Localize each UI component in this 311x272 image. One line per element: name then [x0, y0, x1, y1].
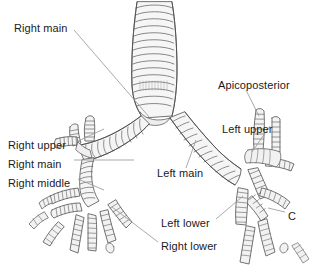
bronchial-tree-figure: Right main Apicoposterior Right upper Le… [0, 0, 311, 272]
label-right-middle: Right middle [8, 177, 70, 189]
label-left-lower: Left lower [161, 217, 210, 229]
accessory-bronchiole-buds-left [105, 242, 116, 254]
leader-marker-c [268, 208, 285, 212]
trachea [132, 2, 177, 118]
leader-right-lower [112, 207, 158, 242]
label-marker-c: C [288, 210, 296, 222]
label-right-main-upper: Right main [14, 22, 68, 34]
label-right-main-lower: Right main [8, 158, 62, 170]
label-apicoposterior: Apicoposterior [218, 79, 290, 91]
right-upper-lobe-bronchi [55, 116, 95, 158]
label-right-lower: Right lower [161, 240, 217, 252]
accessory-bronchiole-buds [279, 242, 309, 263]
right-lower-lobe-bronchi [29, 158, 132, 253]
label-right-upper: Right upper [8, 139, 66, 151]
label-left-main: Left main [157, 167, 203, 179]
label-left-upper: Left upper [222, 123, 273, 135]
leader-apicoposterior [246, 90, 259, 116]
left-upper-lobe-bronchi [245, 109, 294, 171]
bronchial-tree-illustration [0, 0, 311, 272]
